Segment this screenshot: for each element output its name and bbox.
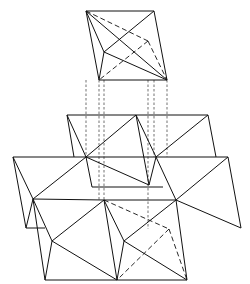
edge — [86, 11, 104, 52]
edge — [104, 11, 154, 52]
edge — [124, 241, 187, 280]
edge — [136, 115, 156, 157]
edge — [67, 115, 74, 157]
edge — [104, 52, 167, 80]
edge — [13, 157, 26, 228]
diagram-canvas — [0, 0, 250, 284]
edge — [26, 199, 33, 228]
hidden-edge — [148, 41, 167, 80]
edge — [13, 157, 33, 199]
edge — [86, 11, 167, 80]
octahedra-diagram — [0, 0, 250, 284]
edge — [154, 11, 167, 80]
edge — [149, 157, 156, 185]
edge — [67, 115, 86, 157]
edge — [104, 200, 117, 280]
hidden-edge — [86, 11, 148, 41]
visible-edges — [13, 11, 241, 280]
edge — [86, 115, 136, 157]
edge — [156, 157, 176, 200]
hidden-edge — [117, 229, 169, 280]
edge — [156, 115, 208, 157]
hidden-edge — [104, 200, 169, 229]
hidden-edges — [86, 11, 187, 280]
edge — [176, 200, 241, 228]
edge — [228, 157, 241, 228]
edge — [86, 157, 149, 185]
edge — [52, 241, 117, 280]
edge — [52, 200, 104, 241]
edge — [136, 115, 149, 185]
edge — [86, 11, 99, 80]
edge — [33, 157, 86, 199]
edge — [124, 200, 176, 241]
hidden-edge — [169, 229, 187, 280]
edge — [208, 115, 216, 157]
edge — [99, 52, 104, 80]
edge — [86, 157, 92, 187]
edge — [33, 199, 104, 200]
edge — [45, 241, 52, 280]
edge — [176, 157, 228, 200]
edge — [176, 200, 187, 280]
